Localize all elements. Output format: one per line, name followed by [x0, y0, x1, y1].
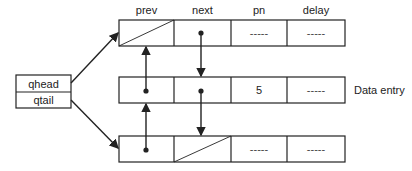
qtail-label: qtail	[16, 94, 71, 106]
null-prev-slash	[119, 20, 174, 46]
data-entry-label: Data entry	[354, 84, 405, 96]
node-3-pn: -----	[231, 143, 287, 155]
pointer-dot	[143, 88, 148, 93]
qhead-label: qhead	[16, 78, 71, 90]
column-header-next: next	[174, 4, 231, 16]
pointer-dot	[198, 30, 203, 35]
node-2-pn: 5	[231, 84, 287, 96]
pointer-dot	[143, 147, 148, 152]
column-header-prev: prev	[119, 4, 174, 16]
node-3-delay: -----	[287, 143, 345, 155]
null-next-slash	[174, 136, 231, 162]
column-header-pn: pn	[231, 4, 287, 16]
column-header-delay: delay	[287, 4, 345, 16]
node-2-delay: -----	[287, 84, 345, 96]
pointer-dot	[198, 88, 203, 93]
node-1-pn: -----	[231, 27, 287, 39]
node-1-delay: -----	[287, 27, 345, 39]
